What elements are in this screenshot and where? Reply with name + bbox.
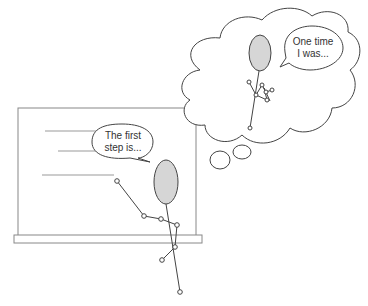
joint [260,83,264,87]
illustration: One time I was... The first step is... [0,0,368,306]
joint [115,179,120,184]
thought-text-line2: I was... [297,48,329,59]
joint [175,223,180,228]
joint [142,214,147,219]
joint [247,80,251,84]
joint [254,93,258,97]
teacher-text-line1: The first [105,130,141,141]
teacher-head [154,160,178,204]
joint [264,90,268,94]
joint [159,217,164,222]
joint [178,290,183,295]
thought-trail-circle-large [210,151,230,169]
teacher-figure [115,160,183,294]
joint [270,88,274,92]
joint [265,98,269,102]
joint [173,245,178,250]
teacher-speech-bubble: The first step is... [92,124,153,162]
thought-trail-circle-small [233,145,251,159]
thought-text-line1: One time [293,36,334,47]
figure-head [249,35,271,71]
teacher-text-line2: step is... [104,142,141,153]
joint [160,258,165,263]
whiteboard-tray [14,235,202,243]
joint [248,126,252,130]
thought-cloud [182,8,360,143]
